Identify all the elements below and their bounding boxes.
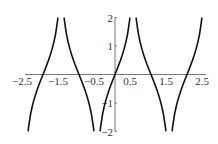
y-tick-label: 1 [108, 40, 114, 52]
y-tick-label: −2 [101, 126, 113, 138]
x-tick-label: 0.5 [123, 75, 137, 87]
chart: −2.5−1.5−0.50.51.52.5 21−1−2 [0, 0, 218, 144]
x-tick-label: 1.5 [159, 75, 173, 87]
y-tick-label: −1 [101, 97, 113, 109]
x-tick-label: −2.5 [12, 75, 32, 87]
x-tick-label: 2.5 [195, 75, 209, 87]
x-tick-label: −1.5 [48, 75, 68, 87]
x-tick-label: −0.5 [84, 75, 104, 87]
y-tick-label: 2 [108, 12, 114, 24]
